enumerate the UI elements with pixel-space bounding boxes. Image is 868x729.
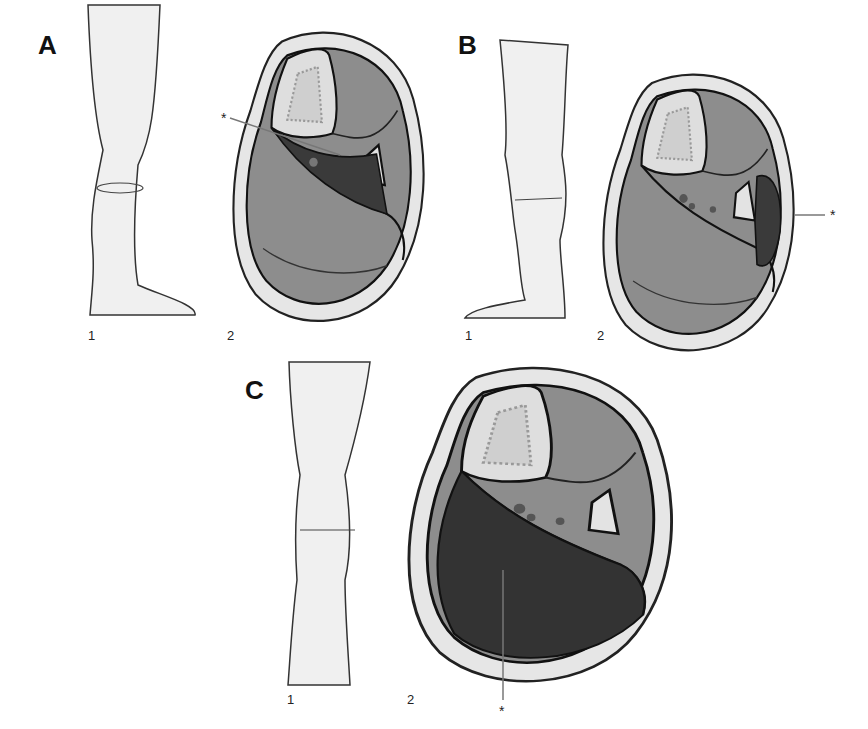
panel-b-cross-section [603,75,793,351]
panel-label-c: C [245,375,264,406]
panel-c-asterisk: * [499,703,504,719]
panel-c-leg-number: 1 [287,692,294,707]
panel-a-leg-number: 1 [88,328,95,343]
panel-b-leg-illustration [465,40,568,318]
panel-a-leg-illustration [88,5,195,315]
panel-b-leg-number: 1 [465,328,472,343]
panel-a-asterisk: * [221,110,226,126]
panel-c-cross-section [409,368,672,681]
panel-a-cross-section [233,33,423,321]
panel-a-section-number: 2 [227,328,234,343]
panel-c-leg-illustration [288,362,370,685]
panel-label-a: A [38,30,57,61]
panel-c-section-number: 2 [407,692,414,707]
panel-label-b: B [458,30,477,61]
panel-b-asterisk: * [830,207,835,223]
figure-canvas [0,0,868,729]
panel-b-section-number: 2 [597,328,604,343]
